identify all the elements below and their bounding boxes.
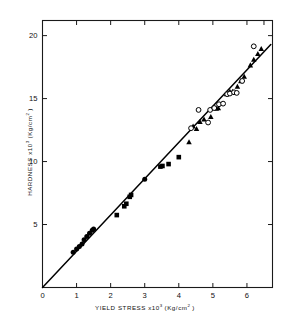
data-point-square-filled <box>166 162 171 167</box>
y-axis-label-main: HARDNESS x10 <box>26 143 33 196</box>
x-tick-label: 5 <box>211 291 215 300</box>
data-point-circle-open <box>189 126 194 131</box>
data-point-square-filled <box>124 201 129 206</box>
data-point-triangle-filled <box>186 139 192 144</box>
data-points <box>71 44 264 255</box>
data-point-triangle-filled <box>255 51 261 56</box>
data-point-circle-open <box>206 120 211 125</box>
x-axis-units-pre: (Kg/cm <box>162 304 187 311</box>
data-point-circle-open <box>196 108 201 113</box>
data-point-circle-filled <box>80 242 85 247</box>
x-axis-units-post: ) <box>190 304 195 311</box>
data-point-triangle-filled <box>251 57 257 62</box>
x-tick-label: 4 <box>177 291 181 300</box>
plot-canvas: 01234565101520 <box>0 0 286 324</box>
data-point-circle-filled <box>142 177 147 182</box>
data-point-triangle-filled <box>208 114 214 119</box>
data-point-triangle-filled <box>235 84 241 89</box>
data-point-square-filled <box>114 213 119 218</box>
y-tick-label: 5 <box>33 220 37 229</box>
data-point-circle-open <box>212 106 217 111</box>
data-point-circle-open <box>240 79 245 84</box>
x-axis-label-main: YIELD STRESS x10 <box>95 304 160 311</box>
y-axis-label: HARDNESS x103 (Kg/cm2 ) <box>25 77 33 227</box>
data-point-square-filled <box>129 193 134 198</box>
data-point-circle-filled <box>91 226 96 231</box>
data-point-triangle-filled <box>259 46 265 51</box>
data-point-square-filled <box>160 164 165 169</box>
data-point-square-filled <box>176 155 181 160</box>
data-point-circle-open <box>234 91 239 96</box>
axis-tick-labels: 01234565101520 <box>29 31 249 299</box>
x-tick-label: 6 <box>245 291 249 300</box>
y-axis-units-exponent: 2 <box>25 113 30 115</box>
x-tick-label: 2 <box>109 291 113 300</box>
x-axis-label: YIELD STRESS x103 (Kg/cm2 ) <box>95 303 195 311</box>
data-point-circle-open <box>251 44 256 49</box>
x-tick-label: 1 <box>74 291 78 300</box>
y-axis-units-pre: (Kg/cm <box>26 116 33 141</box>
y-axis-label-exponent: 3 <box>25 141 30 143</box>
x-tick-label: 0 <box>40 291 44 300</box>
data-point-circle-open <box>221 101 226 106</box>
x-tick-label: 3 <box>143 291 147 300</box>
y-axis-units-post: ) <box>26 108 33 113</box>
scatter-plot-figure: 01234565101520 YIELD STRESS x103 (Kg/cm2… <box>0 0 286 324</box>
y-tick-label: 20 <box>29 31 37 40</box>
